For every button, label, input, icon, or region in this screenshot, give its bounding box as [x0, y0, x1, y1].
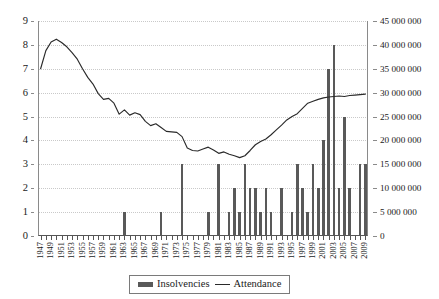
y-tick-label-left: 6: [0, 88, 28, 98]
y-tick-right: [373, 21, 377, 22]
x-tick: [77, 236, 78, 240]
x-tick-label: 1971: [162, 242, 170, 259]
x-tick: [166, 236, 167, 240]
x-tick: [292, 236, 293, 240]
y-tick-left: [31, 164, 35, 165]
x-tick: [130, 236, 131, 240]
y-tick-label-right: 45 000 000: [380, 17, 439, 26]
y-tick-label-right: 10 000 000: [380, 184, 439, 193]
x-tick: [271, 236, 272, 240]
y-tick-left: [31, 236, 35, 237]
y-tick-right: [373, 188, 377, 189]
x-tick: [339, 236, 340, 240]
y-tick-left: [31, 69, 35, 70]
y-tick-label-left: 7: [0, 64, 28, 74]
y-tick-label-right: 0: [380, 232, 439, 241]
x-tick-label: 1985: [236, 242, 244, 259]
x-tick-label: 1997: [299, 242, 307, 259]
x-tick: [198, 236, 199, 240]
x-tick-label: 1991: [267, 242, 275, 259]
x-tick: [308, 236, 309, 240]
x-tick: [140, 236, 141, 240]
y-tick-label-right: 30 000 000: [380, 89, 439, 98]
y-tick-right: [373, 45, 377, 46]
x-tick-label: 1959: [99, 242, 107, 259]
x-tick: [323, 236, 324, 240]
x-tick-label: 1993: [278, 242, 286, 259]
y-tick-right: [373, 212, 377, 213]
x-tick-label: 1965: [131, 242, 139, 259]
x-tick-label: 2003: [330, 242, 338, 259]
line-swatch-icon: [215, 284, 230, 285]
y-tick-left: [31, 93, 35, 94]
x-tick: [219, 236, 220, 240]
x-tick: [297, 236, 298, 240]
x-tick-label: 2001: [319, 242, 327, 259]
y-tick-label-left: 4: [0, 135, 28, 145]
x-tick: [177, 236, 178, 240]
x-tick: [124, 236, 125, 240]
y-tick-left: [31, 140, 35, 141]
x-tick-label: 1961: [110, 242, 118, 259]
x-tick: [156, 236, 157, 240]
y-tick-label-right: 15 000 000: [380, 160, 439, 169]
x-tick: [303, 236, 304, 240]
x-tick-label: 1999: [309, 242, 317, 259]
y-tick-label-left: 3: [0, 159, 28, 169]
x-tick: [360, 236, 361, 240]
x-tick: [56, 236, 57, 240]
legend-item-insolvencies: Insolvencies: [138, 278, 210, 290]
y-axis-left: 0123456789: [0, 21, 34, 236]
x-tick: [72, 236, 73, 240]
x-tick: [213, 236, 214, 240]
y-tick-label-right: 20 000 000: [380, 136, 439, 145]
y-tick-label-right: 35 000 000: [380, 65, 439, 74]
x-tick: [41, 236, 42, 240]
y-tick-label-left: 2: [0, 183, 28, 193]
x-tick: [67, 236, 68, 240]
x-tick: [119, 236, 120, 240]
x-tick-label: 1951: [58, 242, 66, 259]
x-tick: [365, 236, 366, 240]
x-tick-label: 2009: [361, 242, 369, 259]
y-tick-right: [373, 164, 377, 165]
x-tick-label: 1987: [246, 242, 254, 259]
y-tick-left: [31, 21, 35, 22]
x-tick: [334, 236, 335, 240]
y-tick-left: [31, 212, 35, 213]
y-tick-left: [31, 45, 35, 46]
legend-label-attendance: Attendance: [234, 278, 282, 290]
x-tick-label: 1981: [215, 242, 223, 259]
x-tick: [203, 236, 204, 240]
x-tick: [350, 236, 351, 240]
x-tick: [245, 236, 246, 240]
x-tick: [46, 236, 47, 240]
x-tick-label: 1967: [141, 242, 149, 259]
x-tick-label: 1947: [37, 242, 45, 259]
x-tick: [261, 236, 262, 240]
x-tick-label: 2007: [351, 242, 359, 259]
x-tick: [151, 236, 152, 240]
x-tick-label: 1983: [225, 242, 233, 259]
x-tick-label: 1979: [204, 242, 212, 259]
y-tick-right: [373, 140, 377, 141]
x-tick: [240, 236, 241, 240]
x-tick: [172, 236, 173, 240]
y-tick-label-right: 40 000 000: [380, 41, 439, 50]
x-tick: [313, 236, 314, 240]
x-tick: [51, 236, 52, 240]
y-tick-label-left: 8: [0, 40, 28, 50]
x-tick: [88, 236, 89, 240]
x-tick: [98, 236, 99, 240]
x-tick-label: 1989: [257, 242, 265, 259]
y-axis-right: 05 000 00010 000 00015 000 00020 000 000…: [373, 21, 439, 236]
y-tick-label-left: 0: [0, 231, 28, 241]
y-tick-label-left: 1: [0, 207, 28, 217]
x-tick: [103, 236, 104, 240]
x-tick: [182, 236, 183, 240]
y-tick-right: [373, 69, 377, 70]
x-tick-label: 2005: [340, 242, 348, 259]
plot-area: [38, 21, 368, 236]
x-tick-label: 1963: [120, 242, 128, 259]
x-tick: [145, 236, 146, 240]
